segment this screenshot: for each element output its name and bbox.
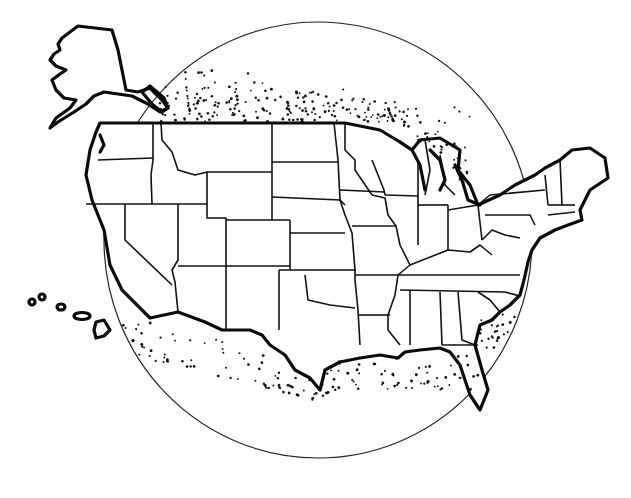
alaska-outline: [50, 26, 168, 128]
hawaii-islands: [29, 294, 110, 338]
contiguous-us: [86, 123, 608, 410]
us-map-figure: [0, 0, 631, 498]
